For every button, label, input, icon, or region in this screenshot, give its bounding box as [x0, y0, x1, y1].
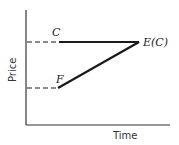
x-axis-label: Time: [112, 130, 137, 141]
c-label: C: [52, 26, 61, 39]
y-axis-label: Price: [7, 58, 18, 82]
f-label: F: [55, 73, 64, 86]
endpoint-label: E(C): [142, 36, 168, 49]
f-convergence-line: [58, 42, 139, 88]
price-time-diagram: C F E(C) Price Time: [0, 0, 179, 145]
